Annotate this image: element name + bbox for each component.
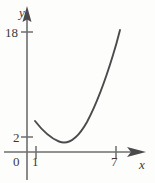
- y-axis-tick-label-2: 2: [13, 131, 20, 144]
- x-axis-tick-label-1: 1: [32, 155, 39, 168]
- y-axis-label: y: [19, 6, 25, 19]
- x-axis-label: x: [139, 158, 145, 171]
- x-axis-tick-label-7: 7: [111, 155, 118, 168]
- function-curve: [35, 30, 120, 142]
- graph-figure: 18 2 0 1 7 y x: [0, 0, 155, 183]
- y-axis-tick-label-18: 18: [5, 26, 18, 39]
- plot-canvas: [0, 0, 155, 183]
- origin-label: 0: [13, 155, 20, 168]
